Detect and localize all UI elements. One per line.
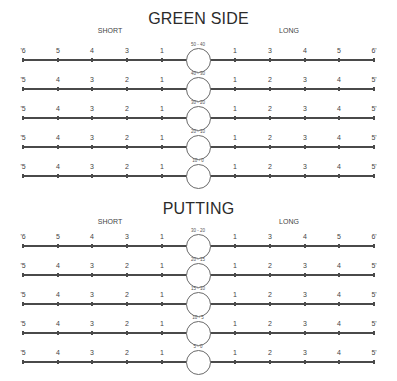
hole-circle-icon[interactable]: [186, 135, 211, 160]
long-distance-label: 4: [337, 349, 341, 356]
tick-mark: [57, 58, 59, 62]
tick-mark: [269, 58, 271, 62]
tick-mark: [338, 302, 340, 306]
long-distance-label: 2: [268, 163, 272, 170]
tick-mark: [22, 87, 24, 91]
short-distance-label: 2: [125, 320, 129, 327]
long-distance-label: 3: [303, 76, 307, 83]
tick-mark: [126, 273, 128, 277]
tick-mark: [234, 331, 236, 335]
long-distance-label: 2: [268, 76, 272, 83]
long-distance-label: 3: [268, 233, 272, 240]
hole-circle-icon[interactable]: [186, 77, 211, 102]
short-distance-label: '5: [20, 163, 25, 170]
long-distance-label: 3: [303, 262, 307, 269]
tick-mark: [373, 145, 375, 149]
short-distance-label: 2: [125, 262, 129, 269]
tick-mark: [234, 244, 236, 248]
tick-mark: [91, 174, 93, 178]
short-distance-label: 5: [56, 47, 60, 54]
tick-mark: [234, 273, 236, 277]
tick-mark: [161, 58, 163, 62]
tick-mark: [304, 244, 306, 248]
long-distance-label: 5': [371, 349, 376, 356]
tick-mark: [57, 87, 59, 91]
tick-mark: [338, 273, 340, 277]
short-distance-label: 3: [90, 291, 94, 298]
tick-mark: [234, 302, 236, 306]
tick-mark: [91, 244, 93, 248]
tick-mark: [234, 116, 236, 120]
tick-mark: [161, 87, 163, 91]
tick-mark: [234, 360, 236, 364]
tick-mark: [126, 145, 128, 149]
hole-circle-icon[interactable]: [186, 106, 211, 131]
long-distance-label: 2: [268, 105, 272, 112]
tick-mark: [373, 360, 375, 364]
putting-long-label: LONG: [279, 218, 299, 225]
hole-circle-icon[interactable]: [186, 292, 211, 317]
long-distance-label: 2: [268, 134, 272, 141]
tick-mark: [304, 58, 306, 62]
hole-circle-icon[interactable]: [186, 321, 211, 346]
long-distance-label: 1: [233, 134, 237, 141]
tick-mark: [373, 273, 375, 277]
short-distance-label: 1: [160, 320, 164, 327]
long-distance-label: 4: [337, 134, 341, 141]
long-distance-label: 5': [371, 163, 376, 170]
short-distance-label: 3: [125, 233, 129, 240]
short-distance-label: 1: [160, 105, 164, 112]
tick-mark: [269, 302, 271, 306]
tick-mark: [373, 174, 375, 178]
distance-range-label: 30 - 20: [191, 100, 205, 105]
tick-mark: [91, 58, 93, 62]
tick-mark: [269, 273, 271, 277]
tick-mark: [91, 116, 93, 120]
distance-range-label: 5 - 0: [193, 344, 202, 349]
putting-distance-row: '5432112345'5 - 0: [0, 361, 397, 381]
long-distance-label: 1: [233, 320, 237, 327]
hole-circle-icon[interactable]: [186, 350, 211, 375]
short-distance-label: 1: [160, 76, 164, 83]
hole-circle-icon[interactable]: [186, 48, 211, 73]
short-distance-label: 2: [125, 163, 129, 170]
distance-range-label: 20 - 10: [191, 129, 205, 134]
long-distance-label: 5': [371, 134, 376, 141]
tick-mark: [126, 331, 128, 335]
short-distance-label: 3: [90, 76, 94, 83]
tick-mark: [126, 174, 128, 178]
long-distance-label: 3: [303, 163, 307, 170]
short-distance-label: 4: [90, 233, 94, 240]
distance-range-label: 10 - 5: [192, 315, 204, 320]
tick-mark: [304, 331, 306, 335]
short-distance-label: '5: [20, 262, 25, 269]
long-distance-label: 6': [371, 233, 376, 240]
tick-mark: [91, 87, 93, 91]
hole-circle-icon[interactable]: [186, 234, 211, 259]
long-distance-label: 1: [233, 76, 237, 83]
tick-mark: [234, 145, 236, 149]
tick-mark: [161, 174, 163, 178]
short-distance-label: 1: [160, 291, 164, 298]
tick-mark: [338, 87, 340, 91]
short-distance-label: 4: [56, 76, 60, 83]
tick-mark: [304, 273, 306, 277]
long-distance-label: 2: [268, 320, 272, 327]
tick-mark: [269, 145, 271, 149]
hole-circle-icon[interactable]: [186, 164, 211, 189]
tick-mark: [57, 244, 59, 248]
tick-mark: [338, 116, 340, 120]
short-distance-label: '5: [20, 105, 25, 112]
tick-mark: [91, 302, 93, 306]
tick-mark: [373, 116, 375, 120]
tick-mark: [126, 116, 128, 120]
hole-circle-icon[interactable]: [186, 263, 211, 288]
tick-mark: [161, 360, 163, 364]
tick-mark: [22, 244, 24, 248]
short-distance-label: 3: [90, 262, 94, 269]
tick-mark: [304, 360, 306, 364]
short-distance-label: '5: [20, 134, 25, 141]
long-distance-label: 3: [303, 134, 307, 141]
tick-mark: [161, 145, 163, 149]
tick-mark: [22, 360, 24, 364]
